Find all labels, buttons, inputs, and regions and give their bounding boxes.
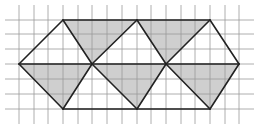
- outline-edge: [210, 20, 239, 64]
- shaded-triangle: [92, 64, 166, 109]
- outline-edge: [19, 20, 63, 64]
- shaded-triangle: [63, 20, 137, 64]
- tessellation-diagram: [0, 0, 259, 128]
